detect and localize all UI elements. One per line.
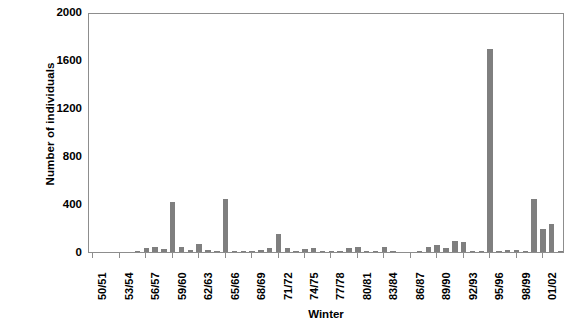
bar — [311, 248, 316, 252]
bar — [487, 49, 492, 252]
x-axis-tick-label: 92/93 — [467, 254, 479, 300]
y-axis-tick-label: 800 — [36, 151, 82, 163]
bar — [232, 251, 237, 252]
x-axis-tick-label: 80/81 — [361, 254, 373, 300]
x-axis-tick-label: 89/90 — [440, 254, 452, 300]
bar — [346, 248, 351, 252]
bar — [152, 247, 157, 252]
plot-area — [88, 13, 564, 253]
x-axis-tick-label: 68/69 — [255, 254, 267, 300]
bar-series — [89, 14, 563, 252]
y-axis-tick-label: 1200 — [36, 103, 82, 115]
bar — [434, 245, 439, 252]
bar — [390, 251, 395, 252]
bar — [337, 251, 342, 252]
bar — [443, 248, 448, 252]
bar — [302, 249, 307, 252]
x-axis-tick-label: 50/51 — [96, 254, 108, 300]
x-axis-tick-label: 65/66 — [229, 254, 241, 300]
bar — [170, 202, 175, 252]
x-axis-tick-label: 01/02 — [546, 254, 558, 300]
bar — [214, 251, 219, 252]
bar — [479, 251, 484, 252]
bar — [188, 250, 193, 252]
bar — [135, 251, 140, 252]
x-axis-tick-label: 59/60 — [176, 254, 188, 300]
x-axis-tick-label: 62/63 — [202, 254, 214, 300]
bar — [426, 247, 431, 252]
x-axis-tick-labels: 50/5153/5456/5759/6062/6365/6668/6971/72… — [88, 258, 564, 304]
bar — [320, 251, 325, 252]
bar — [452, 241, 457, 252]
bar — [514, 250, 519, 252]
bar — [558, 251, 563, 252]
bar — [285, 248, 290, 252]
bar — [196, 244, 201, 252]
x-axis-tick-label: 86/87 — [414, 254, 426, 300]
bar — [540, 229, 545, 252]
bar — [549, 224, 554, 252]
x-axis-title: Winter — [88, 308, 564, 320]
bar — [373, 251, 378, 252]
bar — [276, 234, 281, 252]
x-axis-tick-label: 83/84 — [387, 254, 399, 300]
x-axis-tick-label: 56/57 — [149, 254, 161, 300]
bar — [179, 247, 184, 252]
bar-chart: Number of individuals 040080012001600200… — [0, 0, 576, 335]
bar — [496, 251, 501, 252]
bar — [382, 247, 387, 252]
bar — [364, 251, 369, 252]
bar — [523, 251, 528, 252]
bar — [205, 250, 210, 252]
bar — [293, 251, 298, 252]
y-axis-tick-label: 400 — [36, 199, 82, 211]
bar — [329, 251, 334, 252]
x-axis-tick-label: 77/78 — [334, 254, 346, 300]
bar — [223, 199, 228, 252]
bar — [267, 248, 272, 252]
x-axis-tick-label: 74/75 — [308, 254, 320, 300]
bar — [531, 199, 536, 252]
bar — [470, 251, 475, 252]
bar — [249, 251, 254, 252]
bar — [258, 250, 263, 252]
x-axis-tick-label: 95/96 — [493, 254, 505, 300]
bar — [161, 249, 166, 252]
bar — [241, 251, 246, 252]
bar — [417, 251, 422, 252]
y-axis-tick-labels: 0400800120016002000 — [36, 0, 82, 335]
bar — [461, 242, 466, 252]
y-axis-tick-label: 1600 — [36, 55, 82, 67]
y-axis-tick-label: 0 — [36, 247, 82, 259]
x-axis-tick-label: 98/99 — [520, 254, 532, 300]
x-axis-tick-label: 71/72 — [282, 254, 294, 300]
y-axis-tick-label: 2000 — [36, 7, 82, 19]
bar — [144, 248, 149, 252]
bar — [505, 250, 510, 252]
x-axis-tick-label: 53/54 — [123, 254, 135, 300]
bar — [355, 247, 360, 252]
